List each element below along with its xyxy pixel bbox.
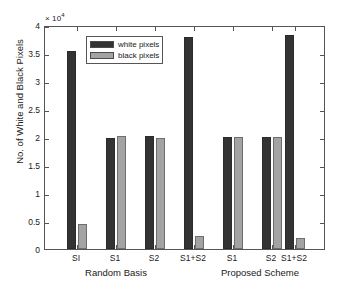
x-tick-label: S1+S2 <box>180 253 206 263</box>
x-tick-mark-top <box>77 27 78 31</box>
x-tick-mark-top <box>295 27 296 31</box>
legend-label-white-pixels: white pixels <box>118 40 159 49</box>
chart-legend: white pixels black pixels <box>86 36 163 64</box>
legend-item-white-pixels: white pixels <box>90 39 159 50</box>
x-tick-label: S1 <box>227 253 237 263</box>
x-tick-label: S1 <box>110 253 120 263</box>
group-label-random-basis: Random Basis <box>85 267 147 278</box>
bar-white-pixels <box>145 136 154 249</box>
x-tick-mark-top <box>116 27 117 31</box>
y-tick-label: 1.5 <box>14 161 40 171</box>
bar-white-pixels <box>223 137 232 249</box>
bar-white-pixels <box>184 37 193 249</box>
group-label-proposed-scheme: Proposed Scheme <box>221 267 299 278</box>
y-tick-mark <box>45 111 49 112</box>
y-tick-mark <box>45 223 49 224</box>
y-tick-mark <box>45 83 49 84</box>
y-tick-mark <box>45 27 49 28</box>
bar-black-pixels <box>156 138 165 249</box>
x-tick-mark-top <box>233 27 234 31</box>
y-tick-label: 0 <box>14 245 40 255</box>
bar-white-pixels <box>106 138 115 249</box>
y-tick-mark-right <box>320 111 324 112</box>
x-tick-mark-top <box>155 27 156 31</box>
y-tick-mark-right <box>320 55 324 56</box>
y-tick-mark <box>45 249 49 250</box>
y-tick-mark <box>45 167 49 168</box>
x-tick-label: S1+S2 <box>281 253 307 263</box>
x-tick-label: SI <box>72 253 80 263</box>
bar-white-pixels <box>67 51 76 249</box>
figure-bar-chart: × 104 No. of White and Black Pixels 4 3.… <box>0 0 342 298</box>
y-tick-label: 1 <box>14 189 40 199</box>
y-axis-tick-labels: 4 3.5 3 2.5 2 1.5 1 0.5 0 <box>12 0 40 298</box>
y-axis-multiplier-exponent: 4 <box>61 12 64 18</box>
legend-swatch-white-pixels <box>90 41 114 48</box>
bar-white-pixels <box>262 137 271 249</box>
y-axis-multiplier-base: × 10 <box>45 14 61 23</box>
x-tick-mark-top <box>272 27 273 31</box>
y-tick-label: 2.5 <box>14 105 40 115</box>
y-tick-mark <box>45 139 49 140</box>
bar-black-pixels <box>273 137 282 249</box>
y-tick-label: 0.5 <box>14 217 40 227</box>
y-tick-label: 3.5 <box>14 49 40 59</box>
y-axis-multiplier: × 104 <box>45 12 65 23</box>
y-tick-mark <box>45 55 49 56</box>
y-tick-mark <box>45 195 49 196</box>
bar-black-pixels <box>117 136 126 249</box>
y-tick-label: 4 <box>14 21 40 31</box>
x-tick-label: S2 <box>266 253 276 263</box>
x-tick-label: S2 <box>149 253 159 263</box>
bar-black-pixels <box>78 224 87 249</box>
y-tick-label: 3 <box>14 77 40 87</box>
x-tick-mark-top <box>194 27 195 31</box>
legend-swatch-black-pixels <box>90 52 114 59</box>
legend-item-black-pixels: black pixels <box>90 50 159 61</box>
bar-black-pixels <box>195 236 204 249</box>
y-tick-mark-right <box>320 223 324 224</box>
legend-label-black-pixels: black pixels <box>118 51 159 60</box>
bar-black-pixels <box>296 238 305 249</box>
bar-black-pixels <box>234 137 243 249</box>
y-tick-mark-right <box>320 139 324 140</box>
y-tick-mark-right <box>320 195 324 196</box>
y-tick-label: 2 <box>14 133 40 143</box>
y-tick-mark-right <box>320 83 324 84</box>
y-tick-mark-right <box>320 167 324 168</box>
bar-white-pixels <box>285 35 294 249</box>
